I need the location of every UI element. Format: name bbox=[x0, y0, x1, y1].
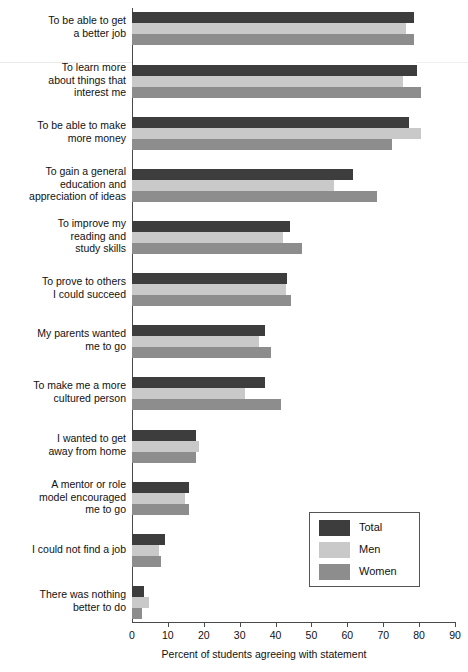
legend-swatch-men bbox=[319, 542, 350, 558]
category-label-line: interest me bbox=[0, 86, 126, 99]
x-axis-title-text: Percent of students agreeing with statem… bbox=[102, 648, 367, 660]
category-label: I wanted to getaway from home bbox=[0, 432, 126, 457]
x-tick-label: 70 bbox=[368, 629, 398, 641]
x-tick-label: 0 bbox=[117, 629, 147, 641]
category-label-line: better to do bbox=[0, 601, 126, 614]
bar-total bbox=[132, 169, 353, 180]
bar-men bbox=[132, 232, 283, 243]
bar-women bbox=[132, 139, 392, 150]
bar-women bbox=[132, 295, 291, 306]
bar-men bbox=[132, 441, 199, 452]
x-axis-title: Percent of students agreeing with statem… bbox=[0, 648, 468, 660]
x-tick bbox=[419, 622, 420, 627]
bar-chart: To be able to geta better jobTo learn mo… bbox=[0, 0, 468, 672]
bar-group bbox=[132, 273, 455, 306]
category-label: To prove to othersI could succeed bbox=[0, 275, 126, 300]
bar-women bbox=[132, 556, 161, 567]
x-tick-label: 90 bbox=[440, 629, 468, 641]
bar-group bbox=[132, 430, 455, 463]
category-label-line: me to go bbox=[0, 503, 126, 516]
bar-total bbox=[132, 482, 189, 493]
category-label: There was nothingbetter to do bbox=[0, 588, 126, 613]
x-tick-label: 20 bbox=[189, 629, 219, 641]
category-label-line: To gain a general bbox=[0, 165, 126, 178]
category-label-line: appreciation of ideas bbox=[0, 190, 126, 203]
x-tick-label: 80 bbox=[404, 629, 434, 641]
x-tick bbox=[383, 622, 384, 627]
category-label: My parents wantedme to go bbox=[0, 327, 126, 352]
category-label-line: To make me a more bbox=[0, 379, 126, 392]
category-label: To gain a generaleducation andappreciati… bbox=[0, 165, 126, 203]
category-label-line: cultured person bbox=[0, 392, 126, 405]
x-tick-label: 30 bbox=[225, 629, 255, 641]
x-tick bbox=[204, 622, 205, 627]
bar-men bbox=[132, 284, 286, 295]
category-label-line: away from home bbox=[0, 445, 126, 458]
x-tick bbox=[168, 622, 169, 627]
category-label: I could not find a job bbox=[0, 543, 126, 556]
category-label: To learn moreabout things thatinterest m… bbox=[0, 61, 126, 99]
bar-group bbox=[132, 586, 455, 619]
legend-label-total: Total bbox=[359, 521, 382, 533]
category-label-line: reading and bbox=[0, 230, 126, 243]
x-axis-line bbox=[132, 622, 455, 623]
category-label-line: education and bbox=[0, 178, 126, 191]
bar-women bbox=[132, 34, 414, 45]
x-tick bbox=[455, 622, 456, 627]
bar-women bbox=[132, 608, 142, 619]
bar-men bbox=[132, 23, 406, 34]
x-tick bbox=[240, 622, 241, 627]
bar-total bbox=[132, 221, 290, 232]
x-tick bbox=[347, 622, 348, 627]
bar-men bbox=[132, 493, 185, 504]
bar-total bbox=[132, 273, 287, 284]
bar-group bbox=[132, 377, 455, 410]
bar-women bbox=[132, 87, 421, 98]
bar-total bbox=[132, 325, 265, 336]
bar-group bbox=[132, 325, 455, 358]
bar-women bbox=[132, 504, 189, 515]
category-label-line: a better job bbox=[0, 27, 126, 40]
bar-women bbox=[132, 347, 271, 358]
legend-label-men: Men bbox=[359, 543, 380, 555]
bar-women bbox=[132, 191, 377, 202]
bar-group bbox=[132, 65, 455, 98]
category-label-line: about things that bbox=[0, 74, 126, 87]
bar-men bbox=[132, 180, 334, 191]
category-label-line: more money bbox=[0, 132, 126, 145]
bar-men bbox=[132, 545, 159, 556]
bar-women bbox=[132, 243, 302, 254]
legend-label-women: Women bbox=[359, 565, 397, 577]
bar-total bbox=[132, 65, 417, 76]
x-tick-label: 50 bbox=[296, 629, 326, 641]
x-tick bbox=[276, 622, 277, 627]
bar-women bbox=[132, 452, 196, 463]
category-label-line: model encouraged bbox=[0, 491, 126, 504]
category-label-line: I could succeed bbox=[0, 288, 126, 301]
category-label-line: study skills bbox=[0, 242, 126, 255]
bar-total bbox=[132, 534, 165, 545]
category-label-line: To be able to get bbox=[0, 14, 126, 27]
category-label-line: To be able to make bbox=[0, 119, 126, 132]
bar-total bbox=[132, 12, 414, 23]
category-label-line: To prove to others bbox=[0, 275, 126, 288]
category-label: To be able to makemore money bbox=[0, 119, 126, 144]
bar-total bbox=[132, 430, 196, 441]
legend-swatch-women bbox=[319, 564, 350, 580]
x-tick-label: 60 bbox=[332, 629, 362, 641]
legend-swatch-total bbox=[319, 520, 350, 536]
bar-men bbox=[132, 388, 245, 399]
category-label-line: To learn more bbox=[0, 61, 126, 74]
category-label-line: I could not find a job bbox=[0, 543, 126, 556]
x-tick-label: 40 bbox=[261, 629, 291, 641]
bar-men bbox=[132, 128, 421, 139]
bar-men bbox=[132, 597, 149, 608]
category-label-line: A mentor or role bbox=[0, 478, 126, 491]
category-label-line: To improve my bbox=[0, 217, 126, 230]
legend: Total Men Women bbox=[309, 512, 420, 587]
bar-women bbox=[132, 399, 281, 410]
x-tick-label: 10 bbox=[153, 629, 183, 641]
category-label: To improve myreading andstudy skills bbox=[0, 217, 126, 255]
bar-total bbox=[132, 117, 409, 128]
category-label-line: I wanted to get bbox=[0, 432, 126, 445]
